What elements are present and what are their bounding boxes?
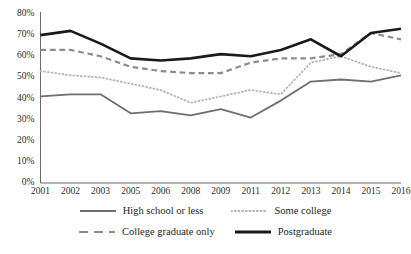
legend-label-college-graduate-only: College graduate only bbox=[122, 227, 215, 238]
legend-item-some-college[interactable]: Some college bbox=[231, 206, 331, 217]
legend-swatch-college-graduate-only bbox=[79, 227, 115, 237]
y-tick-label: 60% bbox=[0, 51, 35, 61]
x-tick-label: 2005 bbox=[115, 187, 147, 197]
y-tick-label: 70% bbox=[0, 30, 35, 40]
chart-legend: High school or less Some college College… bbox=[0, 200, 411, 248]
x-tick-label: 2014 bbox=[325, 187, 357, 197]
x-tick-label: 2012 bbox=[265, 187, 297, 197]
legend-swatch-some-college bbox=[231, 206, 267, 216]
x-tick-label: 2001 bbox=[25, 187, 57, 197]
legend-label-postgraduate: Postgraduate bbox=[278, 227, 332, 238]
x-tick-label: 2009 bbox=[205, 187, 237, 197]
legend-label-high-school-or-less: High school or less bbox=[123, 206, 204, 217]
x-tick-label: 2013 bbox=[295, 187, 327, 197]
x-tick-label: 2008 bbox=[175, 187, 207, 197]
x-tick-label: 2002 bbox=[55, 187, 87, 197]
legend-row-2: College graduate only Postgraduate bbox=[0, 222, 411, 242]
x-tick-label: 2006 bbox=[145, 187, 177, 197]
x-tick-label: 2016 bbox=[385, 187, 411, 197]
series-line-postgraduate bbox=[41, 29, 402, 61]
legend-item-high-school-or-less[interactable]: High school or less bbox=[80, 206, 204, 217]
y-tick-label: 80% bbox=[0, 9, 35, 19]
chart-axes bbox=[41, 12, 402, 183]
legend-item-postgraduate[interactable]: Postgraduate bbox=[235, 227, 332, 238]
line-chart: 0%10%20%30%40%50%60%70%80% 2001200220032… bbox=[0, 0, 411, 254]
y-tick-label: 10% bbox=[0, 157, 35, 167]
y-tick-label: 30% bbox=[0, 115, 35, 125]
legend-swatch-high-school-or-less bbox=[80, 206, 116, 216]
x-tick-label: 2003 bbox=[85, 187, 117, 197]
x-tick-label: 2015 bbox=[355, 187, 387, 197]
y-tick-label: 50% bbox=[0, 72, 35, 82]
chart-series-layer bbox=[41, 29, 402, 118]
legend-label-some-college: Some college bbox=[274, 206, 331, 217]
y-tick-label: 40% bbox=[0, 94, 35, 104]
legend-item-college-graduate-only[interactable]: College graduate only bbox=[79, 227, 215, 238]
legend-swatch-postgraduate bbox=[235, 227, 271, 237]
y-tick-label: 20% bbox=[0, 136, 35, 146]
x-tick-label: 2011 bbox=[235, 187, 267, 197]
legend-row-1: High school or less Some college bbox=[0, 201, 411, 221]
